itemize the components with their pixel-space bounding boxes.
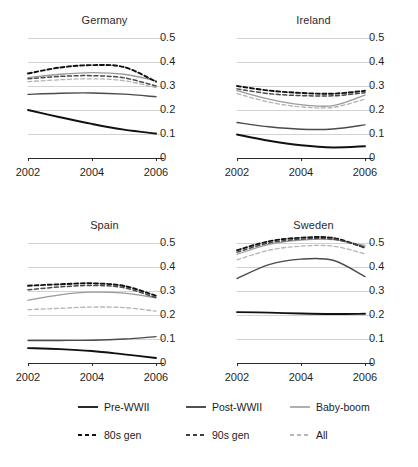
x-axis-tick-label: 2006 — [136, 371, 176, 383]
series-line-pre-wwii — [28, 348, 156, 358]
legend-item-baby-boom[interactable]: Baby-boom — [290, 396, 370, 418]
legend-label: 90s gen — [212, 429, 249, 441]
legend-item-pre-wwii[interactable]: Pre-WWII — [78, 396, 150, 418]
x-axis-tick-label: 2002 — [8, 166, 48, 178]
series-line-post-wwii — [237, 122, 365, 129]
x-axis-tick-label: 2004 — [281, 371, 321, 383]
series-line-post-wwii — [28, 337, 156, 341]
x-axis-tick-label: 2004 — [72, 166, 112, 178]
legend-line-swatch — [186, 402, 206, 412]
panel-title: Germany — [0, 14, 209, 26]
legend-row: Pre-WWIIPost-WWIIBaby-boom — [0, 396, 418, 420]
legend-line-swatch — [290, 402, 310, 412]
series-line-baby-boom — [28, 73, 156, 81]
panel-spain: Spain00.10.20.30.40.5200220042006 — [0, 205, 209, 405]
legend-row: 80s gen90s genAll — [0, 424, 418, 448]
legend-item-90s-gen[interactable]: 90s gen — [186, 424, 249, 446]
x-axis-tick-label: 2006 — [345, 371, 385, 383]
x-axis-tick-label: 2002 — [217, 166, 257, 178]
legend-label: Baby-boom — [316, 401, 370, 413]
panel-title: Sweden — [209, 219, 418, 231]
series-line-post-wwii — [28, 93, 156, 97]
x-axis-tick-label: 2004 — [281, 166, 321, 178]
panel-title: Ireland — [209, 14, 418, 26]
series-line-pre-wwii — [237, 312, 365, 314]
legend-line-swatch — [78, 402, 98, 412]
legend-label: Post-WWII — [212, 401, 262, 413]
legend-label: All — [316, 429, 328, 441]
series-line-post-wwii — [237, 258, 365, 278]
series-line-all — [28, 307, 156, 311]
series-lines — [237, 38, 375, 162]
legend-line-swatch — [290, 430, 310, 440]
series-line-pre-wwii — [237, 134, 365, 147]
panel-ireland: Ireland00.10.20.30.40.5200220042006 — [209, 0, 418, 200]
series-line-pre-wwii — [28, 110, 156, 134]
legend-line-swatch — [186, 430, 206, 440]
legend-line-swatch — [78, 430, 98, 440]
x-axis-tick-label: 2006 — [136, 166, 176, 178]
legend-label: 80s gen — [104, 429, 141, 441]
x-axis-tick-label: 2002 — [217, 371, 257, 383]
panel-germany: Germany00.10.20.30.40.5200220042006 — [0, 0, 209, 200]
panel-title: Spain — [0, 219, 209, 231]
legend-item-80s-gen[interactable]: 80s gen — [78, 424, 141, 446]
legend-item-post-wwii[interactable]: Post-WWII — [186, 396, 262, 418]
series-lines — [28, 243, 166, 367]
panel-sweden: Sweden00.10.20.30.40.5200220042006 — [209, 205, 418, 405]
legend-label: Pre-WWII — [104, 401, 150, 413]
x-axis-tick-label: 2004 — [72, 371, 112, 383]
series-line-baby-boom — [28, 292, 156, 300]
x-axis-tick-label: 2002 — [8, 371, 48, 383]
series-line-80s-gen — [28, 65, 156, 82]
series-lines — [28, 38, 166, 162]
chart-legend: Pre-WWIIPost-WWIIBaby-boom80s gen90s gen… — [0, 396, 418, 456]
series-line-80s-gen — [28, 283, 156, 296]
legend-item-all[interactable]: All — [290, 424, 328, 446]
x-axis-tick-label: 2006 — [345, 166, 385, 178]
series-lines — [237, 243, 375, 367]
series-line-90s-gen — [28, 76, 156, 86]
